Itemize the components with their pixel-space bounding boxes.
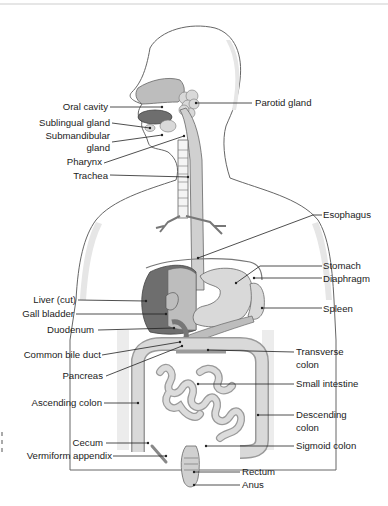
label-spleen: Spleen (323, 303, 353, 314)
label-vermiform-appendix: Vermiform appendix (0, 450, 112, 461)
label-common-bile-duct: Common bile duct (0, 349, 101, 360)
label-transverse-line2: colon (296, 359, 319, 370)
label-diaphragm: Diaphragm (323, 273, 370, 284)
label-pancreas: Pancreas (0, 370, 103, 381)
label-sublingual-gland: Sublingual gland (10, 117, 110, 128)
label-submandibular-line1: Submandibular (10, 130, 110, 141)
label-duodenum: Duodenum (0, 324, 94, 335)
label-stomach: Stomach (323, 260, 361, 271)
label-cecum: Cecum (0, 437, 103, 448)
label-parotid-gland: Parotid gland (255, 97, 312, 108)
label-small-intestine: Small intestine (296, 378, 358, 389)
label-trachea: Trachea (10, 170, 108, 181)
label-liver: Liver (cut) (0, 294, 76, 305)
label-descending-line1: Descending (296, 409, 347, 420)
label-pharynx: Pharynx (10, 156, 102, 167)
label-submandibular-line2: gland (10, 142, 110, 153)
label-transverse-line1: Transverse (296, 346, 344, 357)
digestive-system-illustration (0, 0, 388, 506)
label-anus: Anus (242, 479, 264, 490)
label-sigmoid-colon: Sigmoid colon (296, 440, 356, 451)
rectum-shape (181, 446, 199, 487)
label-oral-cavity: Oral cavity (20, 101, 108, 112)
label-ascending-colon: Ascending colon (0, 397, 102, 408)
label-rectum: Rectum (242, 466, 275, 477)
label-descending-line2: colon (296, 422, 319, 433)
label-esophagus: Esophagus (323, 209, 371, 220)
label-gall-bladder: Gall bladder (0, 308, 74, 319)
